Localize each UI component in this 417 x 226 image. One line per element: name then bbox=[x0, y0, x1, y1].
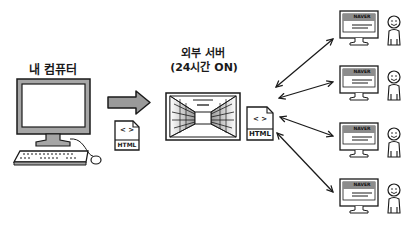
person-icon bbox=[388, 71, 400, 100]
person-icon bbox=[388, 184, 400, 213]
html-file-right-symbol: < > bbox=[247, 115, 273, 123]
client-3-brand: NAVER bbox=[350, 126, 374, 131]
server-icon bbox=[166, 93, 240, 140]
client-1-brand: NAVER bbox=[350, 14, 374, 19]
diagram-canvas bbox=[0, 0, 417, 226]
my-computer bbox=[14, 79, 101, 165]
client-2-brand: NAVER bbox=[350, 69, 374, 74]
person-icon bbox=[388, 16, 400, 45]
monitor-icon bbox=[17, 79, 90, 146]
person-icon bbox=[388, 128, 400, 157]
server-uptime-label: (24시간 ON) bbox=[163, 58, 245, 74]
client-4-brand: NAVER bbox=[350, 182, 374, 187]
upload-arrow-icon bbox=[108, 91, 150, 114]
keyboard-icon bbox=[14, 151, 88, 165]
request-response-arrows bbox=[276, 39, 333, 192]
my-computer-label: 내 컴퓨터 bbox=[22, 60, 84, 77]
html-file-left-symbol: < > bbox=[115, 126, 139, 134]
html-file-left-label: HTML bbox=[115, 141, 139, 148]
html-file-right-label: HTML bbox=[247, 130, 273, 138]
